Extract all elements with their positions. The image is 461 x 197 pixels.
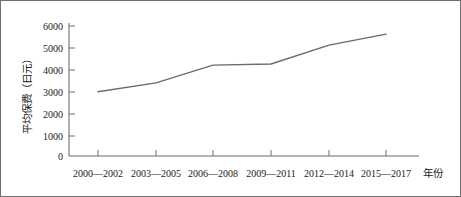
- data-series-line: [98, 34, 386, 92]
- y-tick-label-3000: 3000: [43, 87, 63, 98]
- y-tick-label-5000: 5000: [43, 43, 63, 54]
- x-tick-label-2: 2006—2008: [188, 168, 238, 179]
- y-tick-label-0: 0: [58, 151, 63, 162]
- x-tick-label-0: 2000—2002: [73, 168, 123, 179]
- line-chart-canvas: 平均保费（日元） 6000 5000 4000 3000 2000 1000 0: [1, 1, 461, 197]
- y-tick-label-4000: 4000: [43, 65, 63, 76]
- chart-figure: 平均保费（日元） 6000 5000 4000 3000 2000 1000 0: [0, 0, 461, 197]
- y-tick-label-1000: 1000: [43, 131, 63, 142]
- y-tick-label-6000: 6000: [43, 21, 63, 32]
- y-tick-label-2000: 2000: [43, 109, 63, 120]
- x-tick-label-4: 2012—2014: [304, 168, 354, 179]
- y-axis-title: 平均保费（日元）: [21, 54, 33, 134]
- y-axis-ticks: [69, 26, 75, 136]
- x-tick-label-3: 2009—2011: [246, 168, 296, 179]
- x-axis-title: 年份: [423, 167, 444, 179]
- x-tick-label-5: 2015—2017: [361, 168, 411, 179]
- x-axis-ticks: [98, 150, 386, 156]
- x-tick-label-1: 2003—2005: [131, 168, 181, 179]
